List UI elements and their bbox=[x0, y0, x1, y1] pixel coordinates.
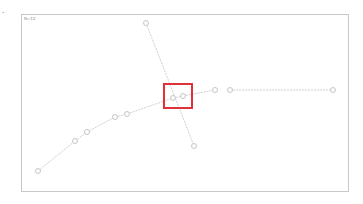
graph-node[interactable] bbox=[85, 130, 90, 135]
graph-node[interactable] bbox=[228, 88, 233, 93]
graph-node[interactable] bbox=[36, 169, 41, 174]
graph-edge bbox=[87, 117, 115, 132]
graph-node[interactable] bbox=[125, 112, 130, 117]
graph-node[interactable] bbox=[144, 21, 149, 26]
graph-node[interactable] bbox=[113, 115, 118, 120]
graph-edge bbox=[38, 141, 75, 171]
graph-node[interactable] bbox=[331, 88, 336, 93]
graph-node[interactable] bbox=[192, 144, 197, 149]
selection-highlight-box[interactable] bbox=[163, 83, 193, 109]
graph-node[interactable] bbox=[73, 139, 78, 144]
graph-node[interactable] bbox=[213, 88, 218, 93]
